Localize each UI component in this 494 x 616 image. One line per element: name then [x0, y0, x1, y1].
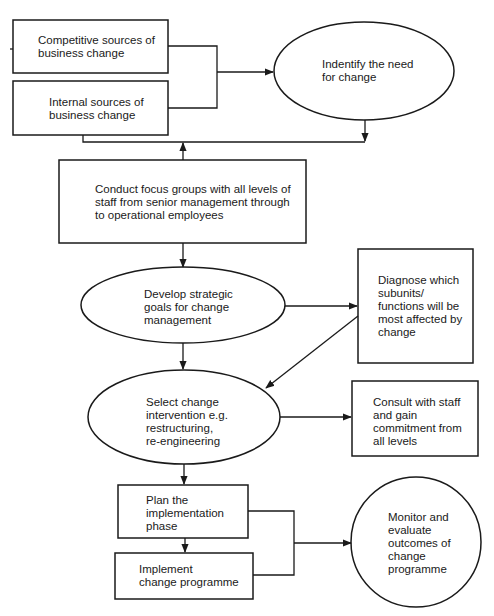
internal-sources-label: Internal sources of business change — [49, 96, 144, 122]
diagnose-subunits-label: Diagnose which subunits/ functions will … — [378, 274, 462, 339]
monitor-evaluate-label: Monitor and evaluate outcomes of change … — [388, 511, 451, 576]
connector-competitive-bracket — [168, 46, 217, 108]
select-intervention-label: Select change intervention e.g. restruct… — [146, 396, 228, 448]
strategic-goals-label: Develop strategic goals for change manag… — [144, 288, 233, 327]
focus-groups-label: Conduct focus groups with all levels of … — [95, 183, 291, 222]
connector-implementation-bracket — [248, 511, 294, 575]
consult-staff-label: Consult with staff and gain commitment f… — [373, 396, 462, 448]
arrow-diagnose-to-select — [266, 316, 358, 388]
implement-programme-label: Implement change programme — [139, 563, 239, 589]
plan-implementation-label: Plan the implementation phase — [146, 494, 224, 533]
connector-shared-horizontal — [83, 135, 365, 142]
identify-need-label: Indentify the need for change — [322, 58, 413, 84]
competitive-sources-label: Competitive sources of business change — [38, 34, 155, 60]
